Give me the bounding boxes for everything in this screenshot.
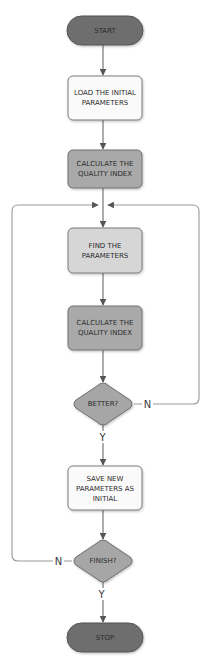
stop-label: STOP [96, 634, 114, 642]
finish-no-label: N [55, 556, 62, 567]
load-initial-parameters-box[interactable]: LOAD THE INITIAL PARAMETERS [68, 76, 142, 120]
save-label-line2: PARAMETERS AS [76, 485, 134, 493]
calc2-label-line2: QUALITY INDEX [78, 329, 132, 337]
find-label-line1: FIND THE [89, 242, 122, 250]
calculate-quality-index-box-1[interactable]: CALCULATE THE QUALITY INDEX [68, 150, 142, 188]
calc2-label-line1: CALCULATE THE [77, 319, 134, 327]
save-label-line3: INITIAL [93, 495, 117, 503]
start-label: START [94, 27, 116, 35]
find-label-line2: PARAMETERS [82, 252, 129, 260]
finish-label: FINISH? [90, 557, 117, 565]
better-no-label: N [144, 399, 151, 410]
load-label-line2: PARAMETERS [82, 99, 129, 107]
calculate-quality-index-box-2[interactable]: CALCULATE THE QUALITY INDEX [68, 306, 142, 350]
calc1-label-line2: QUALITY INDEX [78, 170, 132, 178]
stop-terminal[interactable]: STOP [67, 623, 143, 652]
calc1-label-line1: CALCULATE THE [77, 160, 134, 168]
save-new-parameters-box[interactable]: SAVE NEW PARAMETERS AS INITIAL [68, 466, 142, 510]
save-label-line1: SAVE NEW [87, 475, 124, 483]
better-decision[interactable]: BETTER? [74, 383, 132, 425]
finish-yes-label: Y [97, 589, 105, 600]
start-terminal[interactable]: START [67, 16, 143, 45]
finish-decision[interactable]: FINISH? [74, 540, 132, 582]
find-parameters-box[interactable]: FIND THE PARAMETERS [68, 228, 142, 273]
better-yes-label: Y [98, 432, 106, 443]
better-label: BETTER? [88, 400, 119, 408]
flowchart-diagram: START LOAD THE INITIAL PARAMETERS CALCUL… [0, 0, 210, 664]
load-label-line1: LOAD THE INITIAL [74, 89, 136, 97]
